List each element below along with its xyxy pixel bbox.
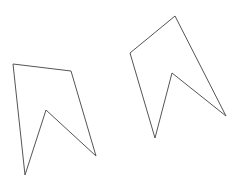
left-arrow-polygon (13, 64, 96, 175)
right-arrow-polygon (130, 16, 226, 138)
diagram-canvas (0, 0, 244, 191)
